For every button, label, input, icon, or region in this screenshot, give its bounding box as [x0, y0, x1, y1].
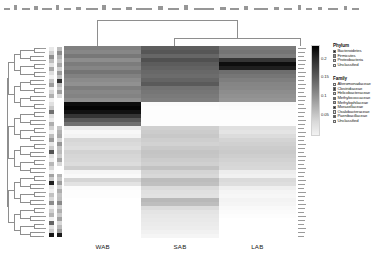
strip-mark: [76, 7, 81, 10]
legend-swatch-icon: [333, 83, 336, 86]
micro-tick: [298, 136, 305, 137]
rowdend-segment: [34, 144, 35, 148]
micro-tick: [40, 96, 46, 97]
rowdend-segment: [20, 114, 21, 122]
rowdend-segment: [14, 54, 15, 70]
micro-tick: [298, 220, 305, 221]
micro-tick: [298, 56, 304, 57]
rowdend-segment: [30, 220, 40, 221]
strip-mark: [34, 6, 38, 10]
rowdend-segment: [20, 234, 30, 235]
micro-tick: [298, 52, 305, 53]
micro-tick: [40, 68, 44, 69]
micro-tick: [298, 208, 305, 209]
micro-tick: [40, 132, 46, 133]
strip-mark: [56, 5, 59, 10]
rowdend-segment: [14, 134, 20, 135]
rowdend-segment: [8, 222, 14, 223]
rowdend-segment: [30, 96, 40, 97]
micro-tick: [298, 84, 306, 85]
heatmap-cell: [64, 234, 141, 238]
micro-tick: [40, 160, 45, 161]
rowdend-segment: [20, 106, 34, 107]
micro-tick: [298, 96, 306, 97]
colorbar-tick-2: 0.1: [321, 94, 327, 98]
micro-tick: [40, 228, 46, 229]
rowdend-segment: [30, 200, 31, 204]
micro-tick: [298, 104, 304, 105]
legend-swatch-icon: [333, 59, 336, 62]
rowdend-segment: [20, 170, 30, 171]
legend-swatch-icon: [333, 110, 336, 113]
rowdend-segment: [7, 206, 8, 207]
micro-tick: [40, 204, 46, 205]
top-clipped-strip: [0, 0, 382, 11]
strip-mark: [86, 8, 98, 10]
micro-tick: [298, 188, 304, 189]
rowdend-segment: [34, 64, 35, 68]
column-label-sab: SAB: [141, 243, 218, 250]
row-leaf-labels: [40, 46, 48, 238]
micro-tick: [298, 112, 305, 113]
rowdend-segment: [34, 112, 35, 116]
rowdend-segment: [20, 186, 30, 187]
micro-tick: [40, 80, 44, 81]
strip-mark: [344, 6, 347, 10]
micro-tick: [40, 192, 46, 193]
rowdend-segment: [8, 190, 9, 222]
micro-tick: [40, 156, 46, 157]
legend-swatch-icon: [333, 64, 336, 67]
rowdend-segment: [20, 114, 34, 115]
rowdend-segment: [20, 130, 34, 131]
micro-tick: [40, 200, 44, 201]
coldend-branch-right: [174, 38, 300, 39]
strip-mark: [352, 8, 359, 10]
micro-tick: [298, 80, 304, 81]
strip-mark: [328, 8, 338, 10]
micro-tick: [298, 168, 306, 169]
micro-tick: [298, 172, 305, 173]
legend-item-phylum-3[interactable]: Unclassified: [333, 63, 381, 68]
micro-tick: [298, 76, 305, 77]
micro-tick: [298, 120, 306, 121]
strip-mark: [64, 8, 71, 10]
rowdend-segment: [14, 118, 15, 134]
colorbar: [311, 45, 320, 136]
rowdend-segment: [20, 162, 34, 163]
rowdend-segment: [20, 178, 21, 186]
rowdend-segment: [20, 210, 21, 218]
rowdend-segment: [20, 130, 21, 138]
legend-item-family-8[interactable]: Unclassified: [333, 119, 381, 124]
micro-tick: [40, 128, 44, 129]
rowdend-segment: [14, 198, 20, 199]
micro-tick: [298, 108, 306, 109]
rowdend-segment: [20, 138, 30, 139]
micro-tick: [298, 152, 304, 153]
coldend-leaf-wab: [97, 20, 98, 46]
micro-tick: [298, 216, 306, 217]
micro-tick: [40, 64, 45, 65]
coldend-leaf-lab: [300, 38, 301, 46]
rowdend-segment: [20, 146, 34, 147]
micro-tick: [298, 196, 305, 197]
rowdend-segment: [20, 90, 34, 91]
micro-tick: [40, 48, 46, 49]
rowdend-segment: [30, 168, 40, 169]
heatmap-column-wab: [64, 46, 141, 238]
rowdend-segment: [14, 86, 15, 102]
micro-tick: [40, 76, 45, 77]
rowdend-segment: [34, 192, 35, 196]
micro-tick: [298, 212, 304, 213]
rowdend-segment: [30, 60, 40, 61]
micro-tick: [298, 128, 304, 129]
heatmap-cell: [219, 234, 296, 238]
rowdend-segment: [20, 50, 21, 58]
rowdend-segment: [20, 210, 34, 211]
rowdend-segment: [20, 226, 34, 227]
rowdend-segment: [8, 126, 9, 158]
rowdend-segment: [8, 94, 14, 95]
rowdend-segment: [30, 216, 31, 220]
rowdend-segment: [30, 80, 40, 81]
micro-tick: [298, 132, 306, 133]
rowdend-segment: [30, 80, 31, 84]
